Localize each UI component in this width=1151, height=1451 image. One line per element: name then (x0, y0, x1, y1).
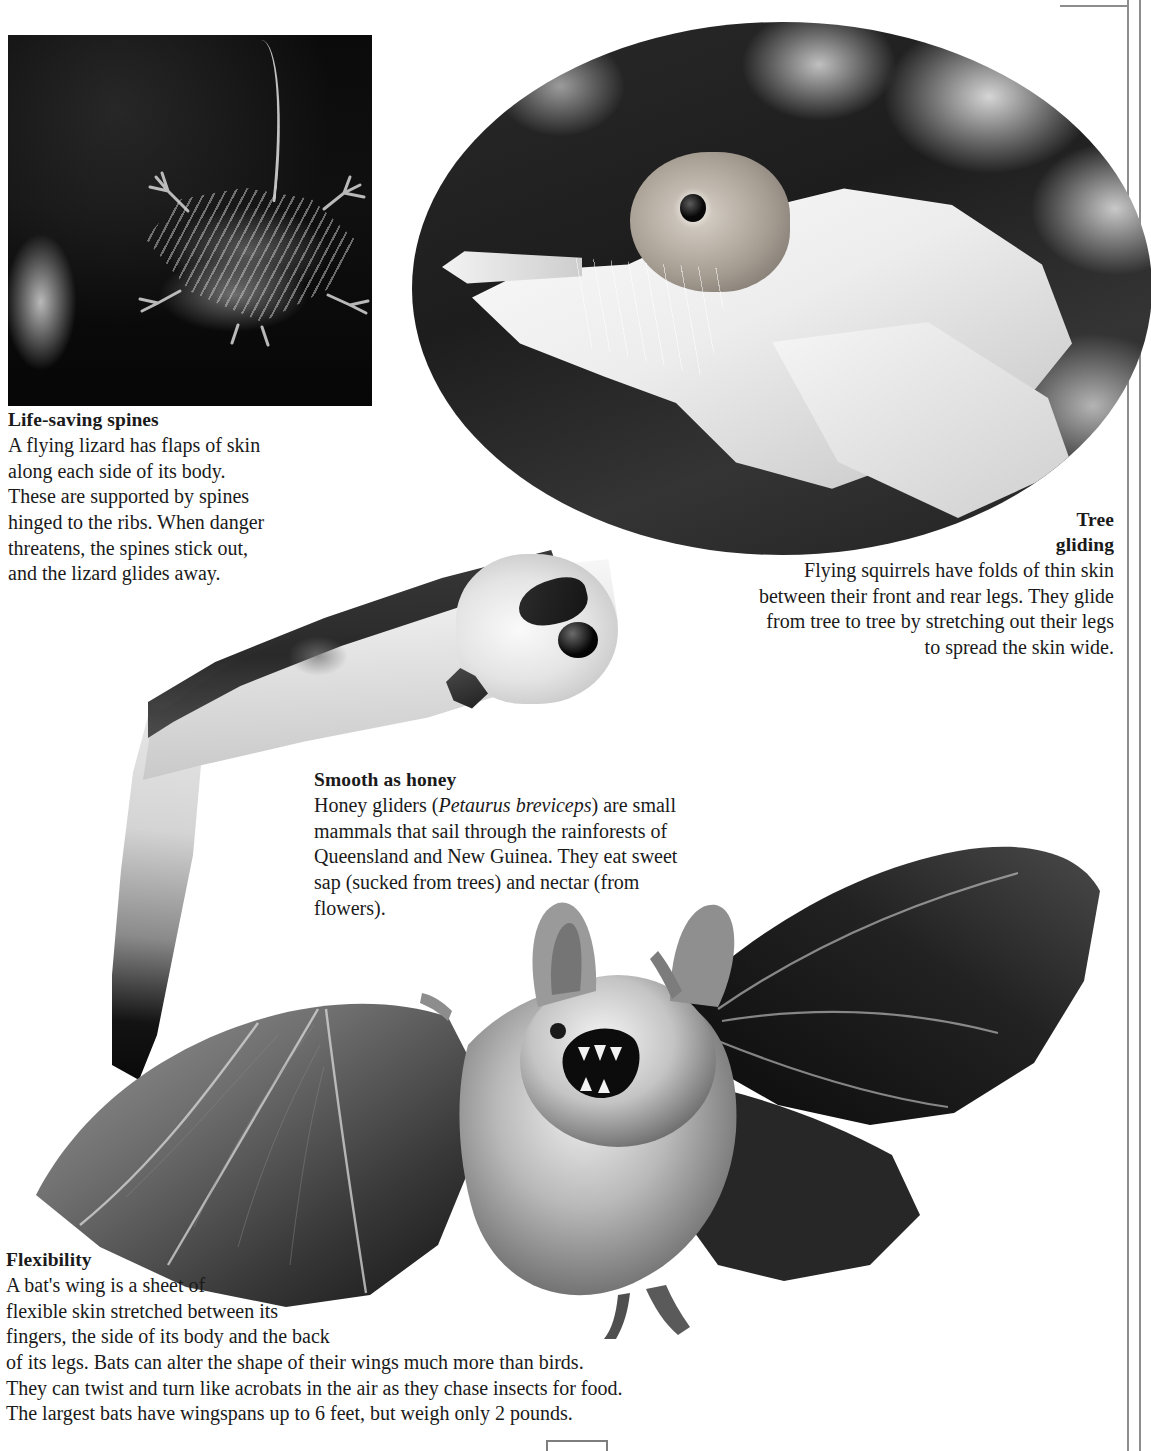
bat-right-wing (678, 847, 1100, 1125)
book-page: Life-saving spines A flying lizard has f… (0, 0, 1151, 1451)
glider-eye (558, 622, 598, 658)
page-border-outer-rule (1139, 0, 1141, 1451)
caption-body: Honey gliders (Petaurus breviceps) are s… (314, 793, 686, 921)
flying-squirrel-photo (412, 22, 1151, 555)
caption-heading: Flexibility (6, 1248, 1126, 1273)
page-number-box (546, 1440, 608, 1451)
caption-heading: Smooth as honey (314, 768, 686, 793)
caption-smooth-as-honey: Smooth as honey Honey gliders (Petaurus … (314, 768, 686, 921)
page-border-top-rule (1060, 5, 1128, 7)
caption-heading-line-2: gliding (752, 533, 1114, 558)
species-name: Petaurus breviceps (438, 794, 591, 816)
caption-heading-line-1: Tree (752, 508, 1114, 533)
caption-body: A flying lizard has flaps of skin along … (8, 433, 268, 587)
caption-body: Flying squirrels have folds of thin skin… (752, 558, 1114, 661)
glider-flank-marking (288, 636, 348, 676)
flying-lizard-photo (8, 35, 372, 406)
bat-eye (550, 1023, 566, 1039)
lizard-limbs (128, 165, 372, 355)
caption-body-before-species: Honey gliders ( (314, 794, 438, 816)
caption-body: A bat's wing is a sheet of flexible skin… (6, 1273, 1126, 1427)
caption-tree-gliding: Tree gliding Flying squirrels have folds… (752, 508, 1114, 661)
caption-heading: Life-saving spines (8, 408, 268, 433)
caption-flexibility: Flexibility A bat's wing is a sheet of f… (6, 1248, 1126, 1427)
squirrel-eye (680, 194, 706, 222)
caption-life-saving-spines: Life-saving spines A flying lizard has f… (8, 408, 268, 587)
